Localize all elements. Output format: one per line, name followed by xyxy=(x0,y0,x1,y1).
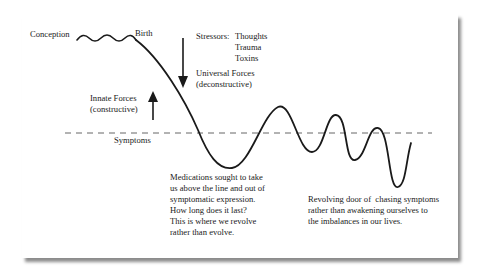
health-curve xyxy=(136,40,411,187)
conception-wave-line xyxy=(77,35,136,41)
symptoms-label: Symptoms xyxy=(114,135,151,146)
stressor-trauma: Trauma xyxy=(235,42,261,53)
stressors-heading: Stressors: xyxy=(196,31,229,42)
down-arrow-icon xyxy=(178,38,188,88)
up-arrow-icon xyxy=(148,91,158,120)
stressor-thoughts: Thoughts xyxy=(235,31,267,42)
medications-annotation: Medications sought to take us above the … xyxy=(170,172,265,238)
birth-label: Birth xyxy=(135,28,153,39)
conception-label: Conception xyxy=(30,29,70,40)
innate-forces-label: Innate Forces xyxy=(90,93,137,104)
universal-forces-label: Universal Forces xyxy=(196,68,254,79)
innate-forces-sublabel: (constructive) xyxy=(90,104,138,115)
revolving-door-annotation: Revolving door of chasing symptoms rathe… xyxy=(308,194,439,227)
stressor-toxins: Toxins xyxy=(235,53,258,64)
universal-forces-sublabel: (deconstructive) xyxy=(196,79,252,90)
